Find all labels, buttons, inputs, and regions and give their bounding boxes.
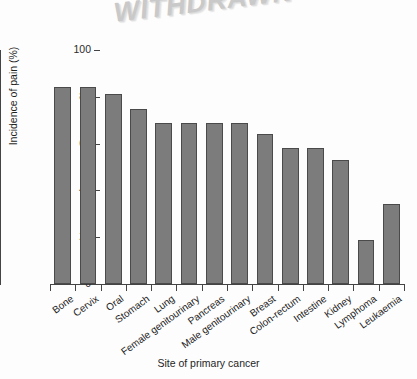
- x-axis-tick-mark: [202, 285, 203, 291]
- x-axis-tick-label: Cervix: [71, 293, 100, 319]
- x-axis-tick-mark: [303, 285, 304, 291]
- bar: [332, 160, 349, 284]
- bar: [206, 123, 223, 284]
- bar: [80, 87, 97, 284]
- x-axis-tick-mark: [50, 285, 51, 291]
- bar: [105, 94, 122, 284]
- x-axis-tick-mark: [353, 285, 354, 291]
- bar: [307, 148, 324, 284]
- x-axis-tick-mark: [126, 285, 127, 291]
- y-axis-tick-label: 100: [73, 43, 91, 55]
- x-axis-tick-mark: [328, 285, 329, 291]
- x-axis-tick-mark: [278, 285, 279, 291]
- y-axis-tick-mark: [94, 50, 100, 51]
- bar: [282, 148, 299, 284]
- bar: [257, 134, 274, 284]
- x-axis-tick-mark: [151, 285, 152, 291]
- bar: [130, 109, 147, 285]
- bar: [181, 123, 198, 284]
- x-axis-tick-mark: [252, 285, 253, 291]
- x-axis-tick-mark: [379, 285, 380, 291]
- chart-page: WITHDRAWN 020406080100 BoneCervixOralSto…: [0, 0, 417, 379]
- bar: [358, 240, 375, 284]
- x-axis-tick-mark: [75, 285, 76, 291]
- bar: [54, 87, 71, 284]
- x-axis-tick-mark: [101, 285, 102, 291]
- x-axis-tick-mark: [404, 285, 405, 291]
- bar: [155, 123, 172, 284]
- bar: [231, 123, 248, 284]
- x-axis-title: Site of primary cancer: [0, 357, 417, 369]
- y-axis-title: Incidence of pain (%): [7, 21, 19, 171]
- plot-area: 020406080100: [50, 50, 404, 284]
- y-axis-line: [0, 50, 1, 285]
- x-axis-tick-mark: [176, 285, 177, 291]
- x-axis-tick-label: Bone: [50, 293, 75, 316]
- withdrawn-watermark: WITHDRAWN: [112, 0, 294, 29]
- y-axis-tick-mark: [94, 284, 100, 285]
- x-axis-tick-mark: [227, 285, 228, 291]
- bar: [383, 204, 400, 284]
